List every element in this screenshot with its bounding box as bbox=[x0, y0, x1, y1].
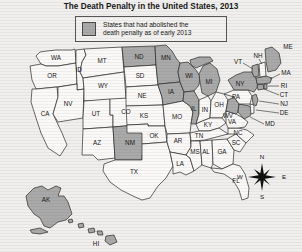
state-AK[interactable] bbox=[26, 186, 72, 228]
state-label-AL: AL bbox=[202, 148, 210, 155]
state-RI[interactable] bbox=[264, 84, 267, 89]
state-label-ND: ND bbox=[134, 53, 144, 60]
state-label-MA: MA bbox=[281, 69, 291, 76]
state-label-ID: ID bbox=[76, 66, 83, 73]
us-choropleth-map: WA OR CA ID NV MT WY UT AZ CO NM ND SD N… bbox=[0, 0, 302, 252]
state-label-CO: CO bbox=[121, 108, 131, 115]
state-label-KS: KS bbox=[140, 112, 148, 119]
compass-label-west: W bbox=[237, 173, 243, 180]
state-label-MN: MN bbox=[161, 54, 171, 61]
state-label-NM: NM bbox=[125, 139, 135, 146]
state-label-VA: VA bbox=[228, 118, 237, 125]
leader-line-MA bbox=[270, 74, 280, 79]
state-label-MS: MS bbox=[190, 148, 199, 155]
state-label-RI: RI bbox=[281, 82, 288, 89]
state-label-WV: WV bbox=[223, 112, 234, 119]
state-label-OR: OR bbox=[47, 72, 57, 79]
state-label-SC: SC bbox=[232, 139, 241, 146]
state-AK-aleutians[interactable] bbox=[30, 228, 48, 234]
state-ME[interactable] bbox=[265, 47, 281, 72]
state-label-VT: VT bbox=[234, 58, 242, 65]
state-label-PA: PA bbox=[232, 93, 241, 100]
leader-line-CT bbox=[264, 89, 279, 95]
state-label-NJ: NJ bbox=[280, 100, 288, 107]
state-DE[interactable] bbox=[250, 104, 254, 114]
state-label-TN: TN bbox=[195, 132, 204, 139]
leader-line-MD bbox=[250, 117, 264, 124]
state-label-MO: MO bbox=[172, 113, 182, 120]
state-label-CT: CT bbox=[280, 91, 289, 98]
state-label-MT: MT bbox=[97, 57, 106, 64]
state-MN[interactable] bbox=[155, 45, 180, 85]
leader-line-NJ bbox=[259, 101, 279, 104]
state-label-WA: WA bbox=[51, 54, 62, 61]
state-label-NV: NV bbox=[64, 100, 74, 107]
state-label-MI: MI bbox=[206, 78, 213, 85]
state-label-NC: NC bbox=[233, 129, 243, 136]
state-label-CA: CA bbox=[41, 110, 51, 117]
state-label-NY: NY bbox=[236, 80, 246, 87]
state-label-NH: NH bbox=[253, 52, 263, 59]
state-label-DE: DE bbox=[280, 109, 289, 116]
state-label-SD: SD bbox=[136, 72, 145, 79]
state-label-AR: AR bbox=[174, 137, 183, 144]
state-label-WY: WY bbox=[98, 82, 109, 89]
state-label-IL: IL bbox=[191, 105, 197, 112]
state-VT[interactable] bbox=[252, 64, 259, 77]
leader-line-DE bbox=[256, 110, 279, 113]
state-label-GA: GA bbox=[217, 148, 227, 155]
state-label-TX: TX bbox=[130, 168, 139, 175]
state-label-LA: LA bbox=[176, 160, 185, 167]
state-label-NE: NE bbox=[138, 92, 147, 99]
state-label-HI: HI bbox=[93, 240, 100, 247]
state-CT[interactable] bbox=[257, 84, 264, 90]
state-label-AZ: AZ bbox=[93, 139, 101, 146]
state-label-KY: KY bbox=[204, 121, 213, 128]
compass-label-north: N bbox=[260, 153, 264, 160]
state-NJ[interactable] bbox=[252, 94, 258, 106]
leader-line-VT bbox=[243, 63, 253, 69]
compass-label-east: E bbox=[282, 173, 286, 180]
state-label-IA: IA bbox=[168, 88, 175, 95]
state-label-IN: IN bbox=[202, 106, 209, 113]
state-MA[interactable] bbox=[256, 76, 272, 84]
state-shapes bbox=[26, 45, 281, 245]
state-label-OK: OK bbox=[149, 132, 159, 139]
state-label-ME: ME bbox=[283, 43, 292, 50]
state-label-UT: UT bbox=[92, 110, 101, 117]
map-figure: The Death Penalty in the United States, … bbox=[0, 0, 302, 252]
state-label-OH: OH bbox=[214, 101, 224, 108]
compass-label-south: S bbox=[260, 193, 264, 200]
state-label-MD: MD bbox=[265, 120, 275, 127]
state-label-WI: WI bbox=[185, 72, 193, 79]
state-FL[interactable] bbox=[211, 164, 249, 200]
state-label-AK: AK bbox=[42, 196, 51, 203]
state-NH[interactable] bbox=[259, 62, 266, 77]
